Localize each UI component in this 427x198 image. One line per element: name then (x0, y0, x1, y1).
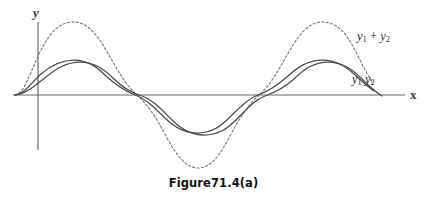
curve-label-components-symbol2: y (365, 72, 371, 86)
y-axis-label: y (33, 6, 39, 19)
curve-label-components-sub1: 1 (358, 77, 362, 87)
curve-label-components: y1 y2 (352, 73, 375, 86)
x-axis-label: x (410, 88, 417, 101)
curve-label-sum: y1 + y2 (357, 30, 390, 43)
curve-label-components-sub2: 2 (371, 77, 375, 87)
curve-y1 (14, 60, 374, 133)
curve-label-sum-symbol2: y (380, 29, 386, 43)
curve-label-sum-sub2: 2 (386, 34, 390, 44)
curve-y2 (16, 62, 382, 135)
curve-label-components-symbol1: y (352, 72, 358, 86)
figure-container: y x y1 + y2 y1 y2 Figure71.4(a) (0, 0, 427, 198)
curve-label-sum-operator: + (367, 29, 380, 43)
figure-caption: Figure71.4(a) (0, 176, 427, 190)
curve-label-sum-symbol1: y (357, 29, 363, 43)
curve-label-sum-sub1: 1 (363, 34, 367, 44)
